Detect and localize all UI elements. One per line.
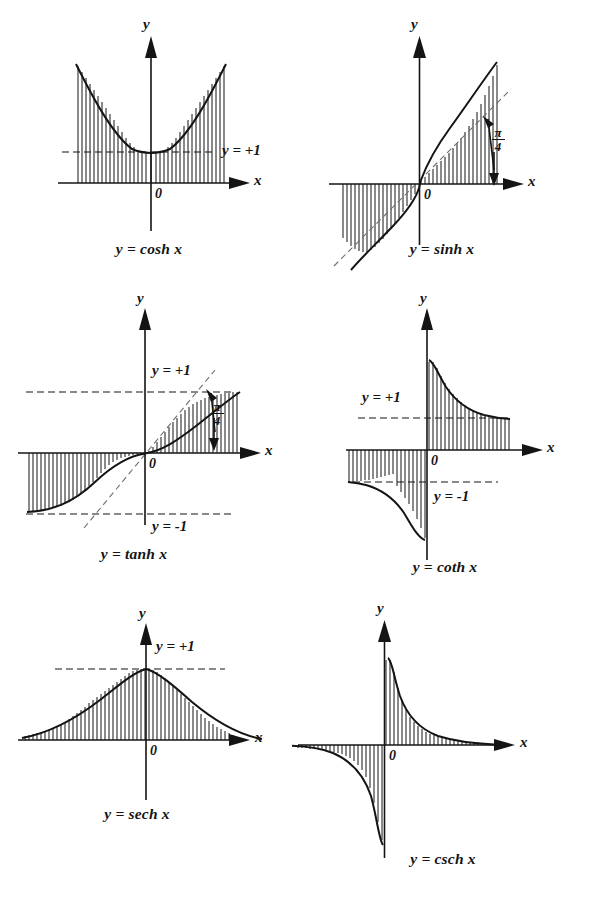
tangent-line-tanh: [84, 370, 215, 528]
caption-tanh: y = tanh x: [0, 545, 298, 563]
panel-tanh: y x 0 y = +1 y = -1 π 4 y = tanh x: [0, 290, 298, 600]
y-axis-arrowhead-icon: [413, 36, 426, 58]
caption-sech: y = sech x: [0, 805, 298, 823]
panel-csch: y x 0 y = csch x: [298, 600, 596, 903]
label-y-minus-1: y = -1: [152, 518, 187, 535]
label-y-plus-1: y = +1: [156, 638, 195, 655]
y-axis-label: y: [411, 16, 418, 33]
hyperbolic-function-figure: y x 0 y = +1 y = cosh x: [0, 0, 596, 903]
origin-label: 0: [150, 743, 157, 759]
origin-label: 0: [155, 186, 162, 202]
label-y-plus-1: y = +1: [222, 142, 261, 159]
panel-coth: y x 0 y = +1 y = -1 y = coth x: [298, 290, 596, 600]
caption-cosh: y = cosh x: [0, 240, 298, 258]
caption-coth: y = coth x: [294, 558, 596, 576]
x-axis-label: x: [547, 439, 555, 456]
x-axis-arrowhead-icon: [503, 178, 524, 190]
origin-label: 0: [424, 187, 431, 203]
angle-label-pi-over-4: π 4: [490, 126, 506, 154]
label-y-minus-1: y = -1: [434, 488, 469, 505]
y-axis-arrowhead-icon: [139, 308, 151, 330]
x-axis-arrowhead-icon: [229, 177, 250, 189]
shading-hatch-sech: [25, 669, 233, 740]
angle-denominator: 4: [490, 140, 506, 153]
panel-sech: y x 0 y = +1 y = sech x: [0, 600, 298, 903]
x-axis-label: x: [254, 172, 262, 189]
y-axis-label: y: [139, 605, 146, 622]
caption-csch: y = csch x: [290, 850, 596, 868]
curve-sinh: [351, 62, 497, 270]
origin-label: 0: [389, 748, 396, 764]
label-y-plus-1: y = +1: [362, 389, 401, 406]
caption-sinh: y = sinh x: [288, 240, 596, 258]
x-axis-label: x: [520, 734, 528, 751]
x-axis-label: x: [265, 442, 273, 459]
x-axis-arrowhead-icon: [494, 739, 515, 751]
angle-numerator: π: [490, 126, 506, 139]
curve-csch-right: [388, 658, 494, 744]
angle-denominator: 4: [209, 414, 225, 427]
curve-sech: [22, 669, 262, 739]
shading-hatch-tanh: [29, 392, 237, 512]
panel-cosh: y x 0 y = +1 y = cosh x: [0, 0, 298, 290]
angle-label-pi-over-4: π 4: [209, 400, 225, 428]
y-axis-arrowhead-icon: [145, 36, 157, 58]
curve-csch-left: [292, 746, 383, 845]
y-axis-label: y: [143, 16, 150, 33]
y-axis-arrowhead-icon: [421, 308, 433, 330]
x-axis-label: x: [528, 173, 536, 190]
label-y-plus-1: y = +1: [152, 362, 191, 379]
y-axis-arrowhead-icon: [140, 623, 152, 645]
x-axis-arrowhead-icon: [522, 444, 543, 456]
x-axis-label: x: [255, 729, 263, 746]
origin-label: 0: [149, 456, 156, 472]
y-axis-label: y: [377, 600, 384, 617]
origin-label: 0: [431, 453, 438, 469]
angle-numerator: π: [209, 400, 225, 413]
panel-sinh: y x 0 π 4 y = sinh x: [298, 0, 596, 290]
x-axis-arrowhead-icon: [240, 447, 261, 459]
y-axis-label: y: [420, 290, 427, 307]
y-axis-label: y: [137, 290, 144, 307]
y-axis-arrowhead-icon: [378, 620, 391, 642]
plot-sech: [0, 600, 298, 903]
